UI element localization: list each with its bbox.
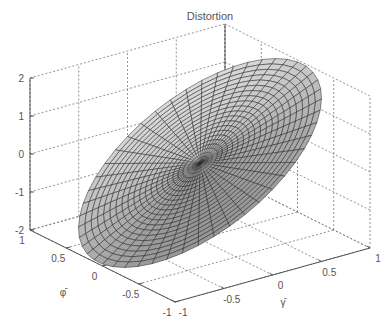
y-tick-label: 1	[19, 235, 25, 246]
chart-title: Distortion	[187, 10, 233, 22]
z-tick-label: 0	[18, 149, 24, 160]
x-tick-label: -1	[179, 307, 188, 318]
x-tick-label: 1	[375, 253, 381, 264]
surface-plot: -2-101210.50-0.5-1-1-0.500.51 Distortion…	[0, 0, 389, 326]
z-tick-label: 1	[18, 111, 24, 122]
z-tick-label: -1	[15, 187, 24, 198]
y-tick-label: 0.5	[51, 253, 65, 264]
surface-mesh	[79, 59, 322, 268]
y-tick-label: -0.5	[122, 289, 140, 300]
y-tick-label: -1	[163, 307, 172, 318]
z-tick-label: 2	[18, 73, 24, 84]
x-axis-label: γ̄	[281, 297, 288, 308]
y-axis-label: φ̄	[60, 287, 68, 298]
x-tick-label: 0	[278, 280, 284, 291]
x-tick-label: -0.5	[223, 294, 241, 305]
x-tick-label: 0.5	[322, 267, 336, 278]
figure: -2-101210.50-0.5-1-1-0.500.51 Distortion…	[0, 0, 389, 326]
y-tick-label: 0	[92, 271, 98, 282]
